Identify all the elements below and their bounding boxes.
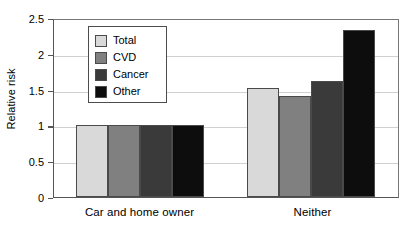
legend: Total CVD Cancer Other: [88, 26, 167, 103]
bar-car-and-home-owner-other: [172, 125, 204, 197]
bar-neither-total: [247, 88, 279, 197]
bar-neither-cvd: [279, 96, 311, 197]
y-tick-mark-0: [48, 198, 53, 199]
legend-swatch-total-icon: [95, 35, 107, 47]
bar-car-and-home-owner-total: [76, 125, 108, 197]
bar-chart: Relative risk 0 0.5 1 1.5 2 2.5 Total: [0, 0, 419, 246]
y-axis-title: Relative risk: [2, 0, 20, 198]
legend-item-cvd: CVD: [95, 49, 166, 66]
x-category-label-neither: Neither: [226, 206, 399, 218]
legend-swatch-cancer-icon: [95, 69, 107, 81]
bar-neither-cancer: [311, 81, 343, 197]
y-tick-label-2: 2: [4, 49, 44, 60]
legend-label-cancer: Cancer: [113, 69, 148, 80]
y-tick-label-0-5: 0.5: [4, 157, 44, 168]
y-tick-label-0: 0: [4, 193, 44, 204]
bar-car-and-home-owner-cancer: [140, 125, 172, 197]
legend-swatch-cvd-icon: [95, 52, 107, 64]
y-tick-label-2-5: 2.5: [4, 14, 44, 25]
legend-label-other: Other: [113, 86, 141, 97]
y-tick-label-1: 1: [4, 121, 44, 132]
bar-neither-other: [343, 30, 375, 197]
y-tick-label-1-5: 1.5: [4, 85, 44, 96]
bar-car-and-home-owner-cvd: [108, 125, 140, 197]
legend-swatch-other-icon: [95, 86, 107, 98]
legend-label-total: Total: [113, 35, 136, 46]
x-category-label-car-and-home-owner: Car and home owner: [53, 206, 226, 218]
legend-item-total: Total: [95, 32, 166, 49]
legend-item-other: Other: [95, 83, 166, 100]
legend-label-cvd: CVD: [113, 52, 136, 63]
legend-item-cancer: Cancer: [95, 66, 166, 83]
